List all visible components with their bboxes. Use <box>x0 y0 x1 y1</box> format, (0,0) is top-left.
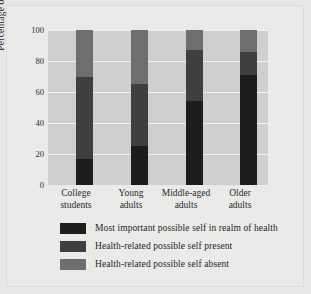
x-label-line-1: Middle-aged <box>162 188 211 198</box>
x-axis-labels: College students Young adults Middle-age… <box>48 188 268 216</box>
bar-segment <box>131 30 148 84</box>
bar-segment <box>131 146 148 185</box>
legend: Most important possible self in realm of… <box>60 219 290 273</box>
y-tick-label: 100 <box>14 26 44 35</box>
bar-segment <box>131 84 148 146</box>
legend-swatch-most-important <box>60 223 86 234</box>
y-axis-ticks: 100 80 60 40 20 0 <box>12 30 44 185</box>
bar-segment <box>76 77 93 159</box>
bar-segment <box>76 30 93 77</box>
y-tick-label: 60 <box>14 88 44 97</box>
x-label-line-1: Young <box>119 188 144 198</box>
bar-segment <box>240 75 257 185</box>
legend-item: Health-related possible self present <box>60 237 290 255</box>
x-label-line-2: adults <box>204 200 276 212</box>
bar-young-adults <box>131 30 148 185</box>
bar-group <box>48 30 268 185</box>
bar-segment <box>76 159 93 185</box>
x-label-line-1: Older <box>229 188 251 198</box>
y-axis-title: Percentage of sample <box>0 0 6 68</box>
bar-segment <box>186 30 203 50</box>
legend-label: Most important possible self in realm of… <box>95 223 278 233</box>
bar-segment <box>240 30 257 52</box>
bar-segment <box>240 52 257 75</box>
x-tick-label-older-adults: Older adults <box>204 188 276 211</box>
legend-swatch-absent <box>60 259 86 270</box>
x-label-line-1: College <box>61 188 91 198</box>
bar-middle-aged-adults <box>186 30 203 185</box>
legend-item: Health-related possible self absent <box>60 255 290 273</box>
legend-item: Most important possible self in realm of… <box>60 219 290 237</box>
legend-swatch-present <box>60 241 86 252</box>
bar-segment <box>186 50 203 101</box>
y-tick-label: 80 <box>14 57 44 66</box>
bar-segment <box>186 101 203 185</box>
legend-label: Health-related possible self absent <box>95 259 229 269</box>
y-tick-label: 20 <box>14 150 44 159</box>
bar-older-adults <box>240 30 257 185</box>
y-tick-label: 40 <box>14 119 44 128</box>
figure: Percentage of sample 100 80 60 40 20 0 C… <box>0 0 311 294</box>
bar-college-students <box>76 30 93 185</box>
legend-label: Health-related possible self present <box>95 241 232 251</box>
